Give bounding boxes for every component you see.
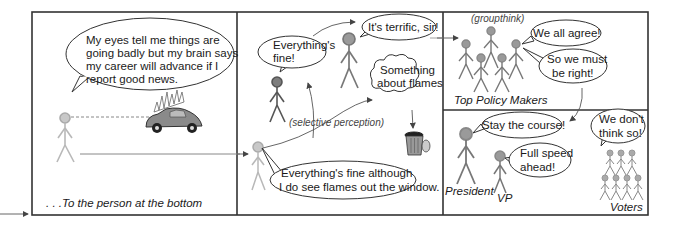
policy-makers-group [459,27,523,92]
arrow-to-trash [412,110,413,128]
label-president: President [445,185,494,197]
speech-bubble-agree: We all agree! [522,20,601,46]
bubble-terrific-text: It's terrific, sir! [368,21,439,33]
bubble-right-line-2: be right! [552,67,594,79]
stick-figure-policy-maker [474,54,488,92]
caption-top-policy-makers: Top Policy Makers [454,94,548,106]
comic-diagram: My eyes tell me things are going badly b… [0,0,681,229]
speech-bubble-window: Everything's fine although I do see flam… [262,148,439,199]
bubble-fine-line-2: fine! [273,52,295,64]
speech-bubble-career: My eyes tell me things are going badly b… [66,18,238,92]
trash-can-icon [405,132,430,155]
speech-bubble-right: So we must be right! [523,48,608,83]
thought-line-2: about flames [377,77,443,89]
bubble-voters-line-1: We don't [599,113,645,125]
thought-line-1: Something [380,64,435,76]
label-voters: Voters [610,201,643,213]
bubble-voters-line-2: think so! [599,127,642,139]
stick-figure-voter [600,175,610,200]
panel-4: Stay the course! Full speed ahead! We do… [445,109,645,213]
stick-figure-voter [605,150,615,175]
stick-figure-person [57,113,74,162]
voters-group [600,150,643,200]
bubble-speed-line-2: ahead! [520,161,555,173]
bubble-speed-line-1: Full speed [520,147,573,159]
annotation-selective-perception: (selective perception) [289,117,384,128]
stick-figure-voter [627,150,637,175]
annotation-groupthink: (groupthink) [471,13,524,24]
speech-line-2: going badly but my brain says [86,47,238,59]
window-line-2: I do see flames out the window. [279,181,439,193]
label-vp: VP [497,192,513,204]
stick-figure-policy-maker [459,40,473,79]
speech-bubble-terrific: It's terrific, sir! [360,14,439,40]
stick-figure-boss [341,33,358,88]
stick-figure-voter [633,175,643,200]
stick-figure-manager [270,77,285,122]
caption-bottom: . . .To the person at the bottom [46,197,203,209]
speech-bubble-voters: We don't think so! [591,109,645,146]
panel-2: Everything's fine! It's terrific, sir! S… [237,14,443,199]
panel-1: My eyes tell me things are going badly b… [46,18,240,209]
speech-bubble-fine: Everything's fine! [258,36,336,72]
stick-figure-policy-maker [495,54,509,92]
speech-bubble-course: Stay the course! [473,112,565,138]
speech-line-3: my career will advance if I [86,60,218,72]
stick-figure-voter [622,175,632,200]
burning-car-icon [146,90,202,133]
speech-line-4: report good news. [86,73,178,85]
arrow-to-president [570,88,582,121]
stick-figure-policy-maker [509,40,523,79]
window-line-1: Everything's fine although [281,167,412,179]
speech-line-1: My eyes tell me things are [86,34,220,46]
stick-figure-president [457,128,475,184]
stick-figure-voter [616,150,626,175]
bubble-course-text: Stay the course! [482,119,565,131]
speech-bubble-speed: Full speed ahead! [505,143,573,177]
stick-figure-voter [611,175,621,200]
stick-figure-policy-maker [484,27,498,68]
stick-figure-vp [494,151,506,193]
bubble-right-line-1: So we must [547,53,608,65]
panel-3: (groupthink) [437,13,608,121]
thought-cloud-flames: Something about flames [370,54,443,91]
bubble-agree-text: We all agree! [533,27,601,39]
bubble-fine-line-1: Everything's [273,39,336,51]
